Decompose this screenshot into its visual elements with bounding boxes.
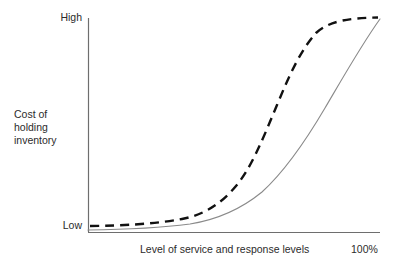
x-axis-title: Level of service and response levels: [140, 243, 309, 256]
y-axis-title: Cost of holding inventory: [14, 108, 84, 147]
y-axis-tick-high: High: [36, 11, 82, 24]
y-axis-title-line-3: inventory: [14, 134, 84, 147]
x-axis-tick-max: 100%: [351, 243, 378, 256]
y-axis-tick-low: Low: [36, 219, 82, 232]
y-axis-title-line-1: Cost of: [14, 108, 84, 121]
series-line-low-cost: [88, 19, 380, 230]
chart-figure: High Low Cost of holding inventory Level…: [0, 0, 403, 271]
series-line-high-cost: [90, 18, 378, 227]
y-axis-title-line-2: holding: [14, 121, 84, 134]
